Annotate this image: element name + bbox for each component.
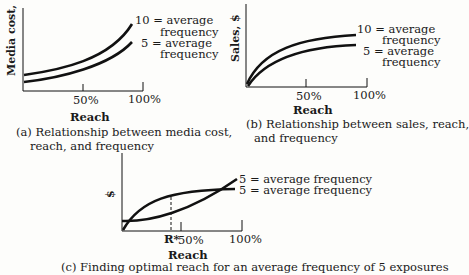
panel-c-curve-label-2: 5 = average frequency	[239, 184, 372, 196]
panel-b-xlabel: Reach	[293, 104, 333, 116]
panel-c-tick-50: 50%	[178, 234, 204, 246]
panel-c-ylabel: $	[104, 190, 117, 198]
panel-b-ylabel: Sales, $	[229, 14, 242, 62]
panel-b-caption-1: (b) Relationship between sales, reach,	[246, 117, 469, 131]
panel-c-tick-100: 100%	[229, 233, 262, 245]
panel-a-ylabel: Media cost, $	[5, 0, 18, 76]
panel-a-caption-2: reach, and frequency	[30, 139, 154, 153]
panel-a-caption-1: (a) Relationship between media cost,	[16, 125, 232, 139]
panel-b-tick-100: 100%	[353, 89, 386, 101]
panel-c-curves	[122, 179, 237, 230]
panel-a-curves	[24, 24, 132, 82]
panel-a-xlabel: Reach	[70, 111, 110, 123]
panel-a-tick-50: 50%	[73, 94, 99, 106]
panel-a-curve-label-5-freq: frequency	[160, 48, 218, 60]
panel-b-curves	[247, 35, 356, 86]
panel-b-caption-2: and frequency	[254, 131, 338, 145]
panel-a-tick-100: 100%	[128, 93, 161, 105]
panel-b-tick-50: 50%	[296, 90, 322, 102]
panel-c-caption: (c) Finding optimal reach for an average…	[61, 260, 449, 274]
panel-b-curve-label-5-freq: frequency	[382, 56, 440, 68]
